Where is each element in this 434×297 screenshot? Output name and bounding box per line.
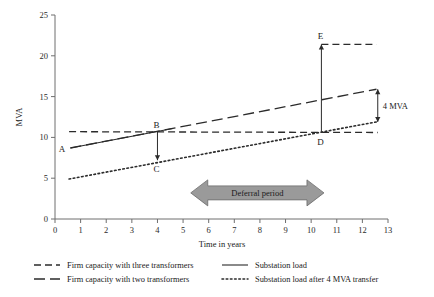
deferral-period-label: Deferral period	[231, 188, 284, 198]
arrow-bc-head	[155, 155, 160, 160]
legend-label-1: Firm capacity with two transformers	[67, 275, 189, 284]
x-axis-ticks: 012345678910111213	[53, 219, 392, 235]
point-label-c: C	[153, 164, 159, 174]
legend-label-2: Substation load	[255, 261, 308, 270]
annotation-arrow-d-to-e	[319, 44, 324, 132]
x-tick-label: 8	[258, 225, 262, 235]
annotation-arrow-b-to-c	[155, 132, 160, 161]
x-tick-label: 12	[358, 225, 367, 235]
x-tick-label: 4	[155, 225, 160, 235]
y-tick-label: 0	[44, 214, 48, 224]
y-tick-label: 10	[40, 132, 49, 142]
point-label-e: E	[318, 31, 324, 41]
x-tick-label: 5	[181, 225, 185, 235]
mva-measure-head-bottom	[375, 117, 380, 122]
chart-legend: Firm capacity with three transformersFir…	[34, 261, 379, 284]
legend-label-0: Firm capacity with three transformers	[67, 261, 194, 270]
x-tick-label: 3	[130, 225, 134, 235]
annotation-4mva-measure: 4 MVA	[375, 89, 409, 122]
x-tick-label: 11	[333, 225, 341, 235]
series-line-3	[69, 122, 376, 179]
data-series-group	[69, 89, 378, 179]
x-tick-label: 2	[104, 225, 108, 235]
series-line-0	[69, 132, 378, 133]
y-tick-label: 25	[40, 10, 49, 20]
chart-svg: 0510152025 012345678910111213 MVA Time i…	[0, 0, 434, 297]
deferral-period-band: Deferral period	[191, 180, 324, 206]
x-tick-label: 7	[232, 225, 236, 235]
y-tick-label: 15	[40, 92, 49, 102]
point-label-b: B	[153, 120, 159, 130]
x-tick-label: 13	[384, 225, 393, 235]
x-tick-label: 9	[283, 225, 287, 235]
legend-label-3: Substation load after 4 MVA transfer	[255, 275, 379, 284]
mva-measure-label: 4 MVA	[383, 101, 409, 111]
x-axis-title: Time in years	[199, 239, 245, 249]
x-tick-label: 10	[307, 225, 316, 235]
x-tick-label: 6	[207, 225, 211, 235]
x-tick-label: 0	[53, 225, 57, 235]
chart-figure: 0510152025 012345678910111213 MVA Time i…	[0, 0, 434, 297]
y-axis-title: MVA	[14, 107, 24, 127]
arrow-de-head	[319, 44, 324, 49]
y-tick-label: 20	[40, 51, 49, 61]
point-labels-group: ABCDE	[59, 31, 325, 174]
point-label-d: D	[317, 137, 324, 147]
y-axis-ticks: 0510152025	[40, 10, 56, 224]
y-tick-label: 5	[44, 173, 48, 183]
point-label-a: A	[59, 144, 66, 154]
x-tick-label: 1	[78, 225, 82, 235]
